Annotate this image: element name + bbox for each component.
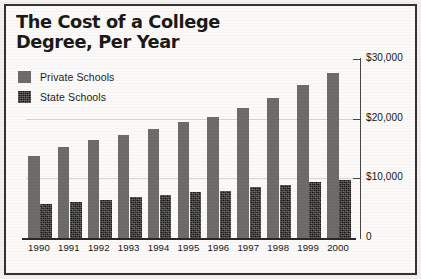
bar-state-1992 [100, 200, 112, 238]
bar-private-1990 [28, 156, 40, 238]
plot-bars [26, 55, 355, 238]
y-tick-mark-30000 [353, 59, 361, 60]
bar-private-1996 [207, 117, 219, 238]
bar-private-2000 [327, 73, 339, 238]
bar-state-1994 [160, 195, 172, 238]
bar-group [28, 55, 58, 238]
x-tick-label-1998: 1998 [263, 242, 293, 253]
bar-group [237, 55, 267, 238]
bar-group [207, 55, 237, 238]
bar-private-1997 [237, 108, 249, 238]
bar-group [178, 55, 208, 238]
bar-group [297, 55, 327, 238]
y-tick-label-0: 0 [366, 231, 372, 242]
bar-group [267, 55, 297, 238]
bar-state-1998 [280, 185, 292, 238]
bar-private-1992 [88, 140, 100, 238]
bar-group [118, 55, 148, 238]
x-tick-label-1993: 1993 [114, 242, 144, 253]
bar-private-1998 [267, 98, 279, 238]
bar-state-1995 [190, 192, 202, 238]
x-tick-label-1999: 1999 [293, 242, 323, 253]
bar-state-1997 [250, 187, 262, 238]
y-tick-mark-20000 [353, 119, 361, 120]
bar-state-1991 [70, 202, 82, 238]
x-tick-label-2000: 2000 [323, 242, 353, 253]
bar-state-2000 [339, 180, 351, 238]
bar-private-1991 [58, 147, 70, 238]
y-axis-line [360, 58, 361, 239]
y-tick-mark-10000 [353, 178, 361, 179]
y-tick-label-20000: $20,000 [366, 112, 403, 123]
x-tick-label-1996: 1996 [203, 242, 233, 253]
bar-state-1999 [309, 182, 321, 238]
y-tick-label-30000: $30,000 [366, 52, 403, 63]
chart-title: The Cost of a College Degree, Per Year [16, 12, 304, 51]
bar-private-1994 [148, 129, 160, 238]
x-tick-label-1991: 1991 [54, 242, 84, 253]
y-tick-label-10000: $10,000 [366, 171, 403, 182]
x-tick-label-1992: 1992 [84, 242, 114, 253]
x-tick-label-1994: 1994 [144, 242, 174, 253]
bar-state-1990 [40, 204, 52, 238]
bar-state-1993 [130, 197, 142, 238]
x-tick-label-1997: 1997 [233, 242, 263, 253]
bar-private-1995 [178, 122, 190, 238]
x-axis-baseline [22, 238, 356, 240]
bar-group [148, 55, 178, 238]
bar-private-1993 [118, 135, 130, 238]
bar-group [327, 55, 357, 238]
chart-figure: The Cost of a College Degree, Per Year P… [0, 0, 421, 279]
x-tick-label-1995: 1995 [174, 242, 204, 253]
bar-private-1999 [297, 85, 309, 238]
bar-group [58, 55, 88, 238]
x-tick-label-1990: 1990 [24, 242, 54, 253]
bar-state-1996 [220, 191, 232, 238]
bar-group [88, 55, 118, 238]
